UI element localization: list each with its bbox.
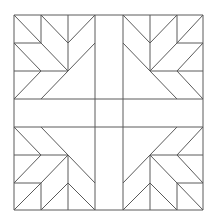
feather-seam-bottom-left <box>41 127 68 155</box>
feather-seam-top-right <box>177 15 203 43</box>
feather-seam-bottom-right <box>123 155 150 183</box>
feather-seam-top-right <box>150 43 177 71</box>
feather-seam-top-right <box>123 43 150 71</box>
feather-seam-top-right <box>177 71 203 99</box>
quilt-block-diagram <box>0 0 205 218</box>
feather-seam-top-right <box>177 43 203 71</box>
feather-seam-top-left <box>68 43 95 71</box>
feather-seam-bottom-left <box>41 183 68 210</box>
feather-seam-top-right <box>123 15 150 43</box>
feather-seam-bottom-left <box>14 127 41 155</box>
feather-seam-top-right <box>150 15 177 43</box>
feather-seam-bottom-right <box>150 155 177 183</box>
feather-seam-bottom-left <box>68 183 95 210</box>
feather-seam-top-right <box>150 71 177 99</box>
feather-seam-top-left <box>68 15 95 43</box>
feather-seam-bottom-left <box>41 155 68 183</box>
feather-seam-top-left <box>14 71 41 99</box>
feather-seam-top-left <box>14 15 41 43</box>
feather-seam-bottom-right <box>177 127 203 155</box>
feather-seam-top-left <box>41 43 68 71</box>
feather-seam-top-left <box>41 15 68 43</box>
feather-seam-bottom-right <box>177 183 203 210</box>
feather-seam-bottom-right <box>123 183 150 210</box>
feather-seam-bottom-left <box>14 155 41 183</box>
feather-seam-bottom-right <box>150 127 177 155</box>
feather-seam-top-left <box>14 43 41 71</box>
feather-seam-bottom-left <box>14 183 41 210</box>
feather-seam-top-left <box>41 71 68 99</box>
feather-seam-bottom-right <box>150 183 177 210</box>
feather-seam-bottom-right <box>177 155 203 183</box>
feather-seam-bottom-left <box>68 155 95 183</box>
